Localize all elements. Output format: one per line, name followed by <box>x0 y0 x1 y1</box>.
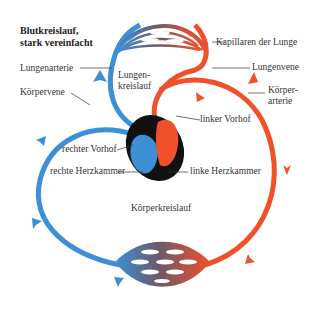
diagram-title: Blutkreislauf, stark vereinfacht <box>20 25 93 49</box>
body-capillaries <box>115 242 210 287</box>
label-rechte-herzkammer: rechte Herzkammer <box>50 166 125 177</box>
label-koerpervene: Körpervene <box>20 87 65 98</box>
title-line-1: Blutkreislauf, <box>20 25 93 37</box>
label-lungenvene: Lungenvene <box>252 62 299 73</box>
label-linke-herzkammer: linke Herzkammer <box>190 166 261 177</box>
label-lungenkreislauf: Lungen- kreislauf <box>118 70 151 92</box>
label-linker-vorhof: linker Vorhof <box>200 114 251 125</box>
label-rechter-vorhof: rechter Vorhof <box>62 144 117 155</box>
label-koerperkreislauf: Körperkreislauf <box>131 203 191 214</box>
title-line-2: stark vereinfacht <box>20 37 93 49</box>
label-kapillaren-der-lunge: Kapillaren der Lunge <box>216 37 297 48</box>
label-koerperarterie: Körper- arterie <box>268 85 298 107</box>
label-lungenarterie: Lungenarterie <box>20 63 73 74</box>
